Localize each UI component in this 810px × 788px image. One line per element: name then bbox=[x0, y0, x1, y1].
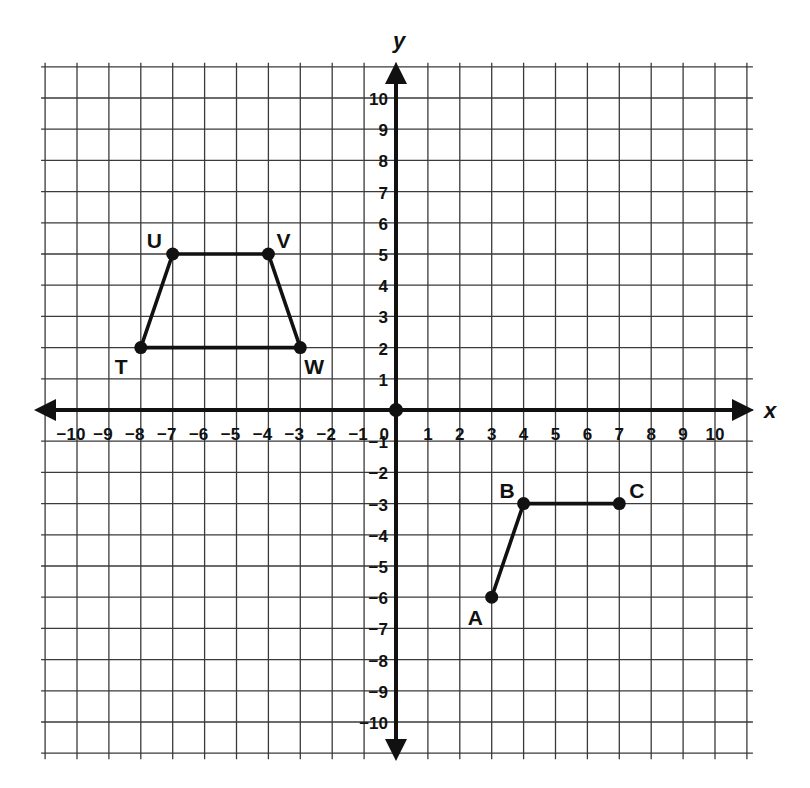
x-tick-label: 10 bbox=[706, 425, 725, 444]
x-tick-label: 5 bbox=[551, 425, 560, 444]
x-tick-label: −8 bbox=[125, 425, 144, 444]
y-tick-label: 2 bbox=[379, 340, 388, 359]
vertex-point bbox=[517, 497, 530, 510]
figure-edges bbox=[141, 254, 300, 348]
vertex-label: A bbox=[468, 606, 483, 629]
x-tick-label: 8 bbox=[646, 425, 655, 444]
y-axis-up-arrow-icon bbox=[385, 62, 407, 84]
y-tick-label: −9 bbox=[369, 683, 388, 702]
y-tick-label: −3 bbox=[369, 496, 388, 515]
y-tick-label: −2 bbox=[369, 464, 388, 483]
origin-point bbox=[389, 403, 403, 417]
x-tick-label: 1 bbox=[423, 425, 432, 444]
x-tick-label: −10 bbox=[57, 425, 86, 444]
x-tick-label: 9 bbox=[678, 425, 687, 444]
y-tick-label: 5 bbox=[379, 246, 388, 265]
y-tick-label: 7 bbox=[379, 184, 388, 203]
y-axis-down-arrow-icon bbox=[385, 739, 407, 761]
x-tick-label: −6 bbox=[189, 425, 208, 444]
vertex-point bbox=[613, 497, 626, 510]
x-tick-label: −1 bbox=[348, 425, 367, 444]
y-tick-label: −10 bbox=[359, 714, 388, 733]
y-tick-label: −4 bbox=[369, 527, 389, 546]
vertex-point bbox=[294, 341, 307, 354]
vertex-point bbox=[166, 248, 179, 261]
x-tick-label: 3 bbox=[487, 425, 496, 444]
y-tick-label: 3 bbox=[379, 308, 388, 327]
y-tick-label: 8 bbox=[379, 152, 388, 171]
y-tick-label: 9 bbox=[379, 121, 388, 140]
coordinate-plane: x y −10−9−8−7−6−5−4−3−2−1123456789101098… bbox=[0, 0, 810, 788]
y-tick-label: −8 bbox=[369, 652, 388, 671]
y-axis-label: y bbox=[392, 28, 407, 53]
x-axis-label: x bbox=[763, 398, 777, 423]
x-tick-label: −3 bbox=[285, 425, 304, 444]
x-tick-label: −4 bbox=[253, 425, 273, 444]
x-axis-right-arrow-icon bbox=[732, 399, 754, 421]
y-tick-label: 4 bbox=[379, 277, 389, 296]
x-tick-label: −5 bbox=[221, 425, 240, 444]
vertex-label: W bbox=[304, 355, 324, 378]
vertex-label: B bbox=[500, 479, 515, 502]
origin-label: 0 bbox=[380, 425, 389, 444]
vertex-label: C bbox=[629, 479, 644, 502]
y-tick-label: 10 bbox=[369, 90, 388, 109]
y-tick-label: −7 bbox=[369, 620, 388, 639]
vertex-point bbox=[485, 591, 498, 604]
y-tick-label: 1 bbox=[379, 371, 388, 390]
vertex-label: U bbox=[147, 229, 162, 252]
vertex-label: V bbox=[276, 229, 290, 252]
x-tick-label: 4 bbox=[519, 425, 529, 444]
x-tick-label: 7 bbox=[615, 425, 624, 444]
y-tick-label: −5 bbox=[369, 558, 388, 577]
x-tick-label: 2 bbox=[455, 425, 464, 444]
x-tick-label: −2 bbox=[317, 425, 336, 444]
x-tick-label: −9 bbox=[93, 425, 112, 444]
axes: x y bbox=[34, 28, 777, 761]
y-tick-label: −6 bbox=[369, 589, 388, 608]
x-tick-label: 6 bbox=[583, 425, 592, 444]
x-tick-label: −7 bbox=[157, 425, 176, 444]
vertex-point bbox=[134, 341, 147, 354]
vertex-point bbox=[262, 248, 275, 261]
vertex-label: T bbox=[115, 355, 128, 378]
y-tick-label: 6 bbox=[379, 215, 388, 234]
figure: TUVW bbox=[115, 229, 324, 378]
